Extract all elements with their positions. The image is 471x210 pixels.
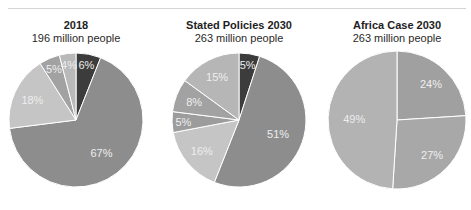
pie-2018-slice-label: 6% (78, 59, 94, 71)
pie-africa-case-slice-label: 27% (421, 149, 443, 161)
pie-2018-slice-label: 5% (46, 63, 62, 75)
pie-charts: 6%67%18%5%4%5%51%16%5%8%15%24%27%49% (0, 0, 471, 210)
pie-2018-slice-label: 67% (90, 147, 112, 159)
pie-stated-policies-slice-label: 15% (206, 71, 228, 83)
pie-africa-case-slice-label: 49% (343, 113, 365, 125)
pie-stated-policies-slice-label: 5% (175, 116, 191, 128)
pie-africa-case-slice-label: 24% (420, 78, 442, 90)
pie-2018-slice-label: 4% (61, 59, 77, 71)
pie-stated-policies-slice-label: 5% (240, 59, 256, 71)
pie-2018-slice-label: 18% (21, 94, 43, 106)
pie-stated-policies-slice-label: 16% (191, 145, 213, 157)
pie-stated-policies-slice-label: 8% (186, 96, 202, 108)
pie-stated-policies-slice-label: 51% (267, 128, 289, 140)
